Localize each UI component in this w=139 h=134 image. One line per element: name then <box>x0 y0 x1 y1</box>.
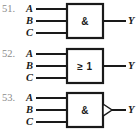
gate-diagram-item: 53. A B C & Y <box>0 89 139 134</box>
logic-gate-exercise-sheet: 51. A B C & Y 52. A B C <box>0 0 139 134</box>
gate-diagram-item: 52. A B C ≥ 1 Y <box>0 45 139 90</box>
output-label-y: Y <box>128 105 134 116</box>
gate-function-symbol: & <box>67 16 103 27</box>
output-label-y: Y <box>128 16 134 27</box>
negation-triangle-icon <box>103 104 112 116</box>
gate-diagram-item: 51. A B C & Y <box>0 0 139 45</box>
output-label-y: Y <box>128 61 134 72</box>
gate-function-symbol: ≥ 1 <box>67 61 103 72</box>
gate-function-symbol: & <box>67 105 103 116</box>
